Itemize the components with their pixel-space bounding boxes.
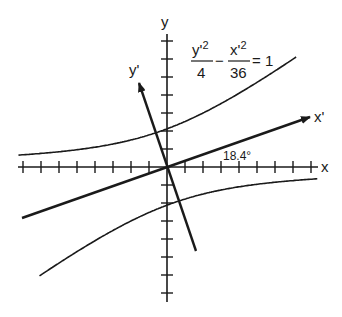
x-prime-axis-label: x' — [314, 108, 325, 125]
equation-minus: − — [215, 52, 224, 69]
equation-right-denominator: 36 — [230, 64, 247, 81]
equation-left-denominator: 4 — [197, 64, 205, 81]
diagram-canvas: x y x' y' 18.4° y'2 4 − x'2 36 = 1 — [0, 0, 342, 317]
rotated-hyperbola-diagram: x y x' y' 18.4° y'2 4 − x'2 36 = 1 — [0, 0, 342, 317]
rotation-angle-label: 18.4° — [223, 149, 251, 163]
equation-left-numerator: y'2 — [192, 39, 209, 58]
y-prime-axis-label: y' — [129, 61, 140, 78]
hyperbola-lower-branch — [40, 179, 318, 276]
x-axis-label: x — [321, 158, 329, 175]
hyperbola-equation: y'2 4 − x'2 36 = 1 — [191, 39, 273, 81]
y-axis-label: y — [161, 13, 169, 30]
equation-right-numerator: x'2 — [230, 39, 247, 58]
equation-equals-one: = 1 — [252, 52, 273, 69]
